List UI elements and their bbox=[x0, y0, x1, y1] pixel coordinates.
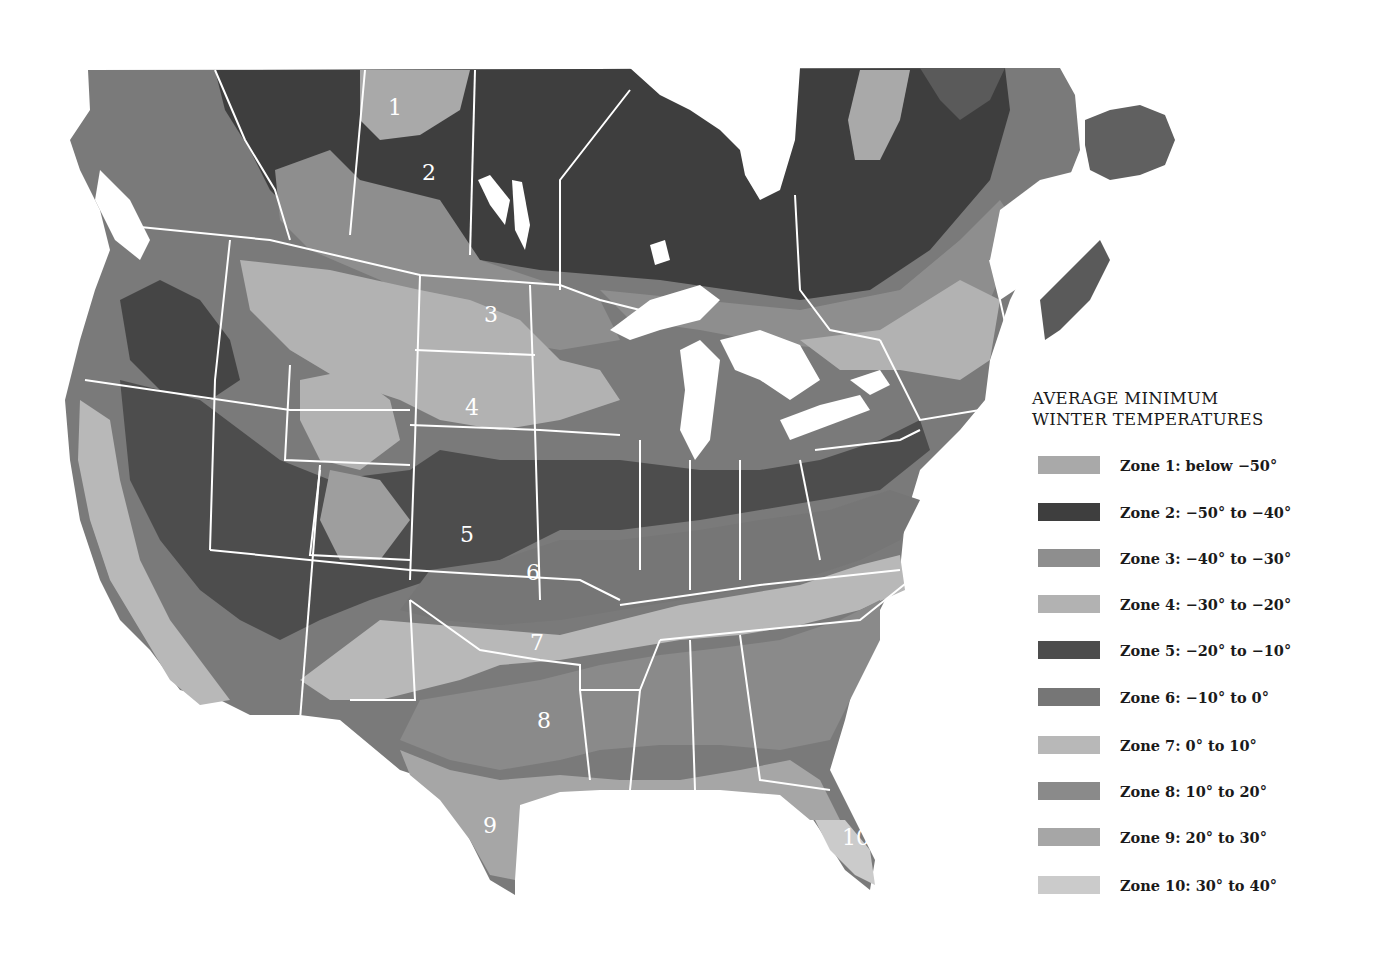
legend-item-zone-2: Zone 2: −50° to −40° bbox=[1032, 501, 1291, 523]
swatch-zone-10 bbox=[1038, 876, 1100, 894]
zone-label-8: 8 bbox=[537, 708, 551, 733]
swatch-zone-1 bbox=[1038, 456, 1100, 474]
legend-item-zone-1: Zone 1: below −50° bbox=[1032, 454, 1277, 476]
legend-title-line-1: AVERAGE MINIMUM bbox=[1032, 388, 1332, 409]
legend-label-zone-3: Zone 3: −40° to −30° bbox=[1120, 550, 1291, 567]
swatch-zone-7 bbox=[1038, 736, 1100, 754]
legend: AVERAGE MINIMUM WINTER TEMPERATURES Zone… bbox=[1032, 388, 1332, 430]
swatch-zone-5 bbox=[1038, 641, 1100, 659]
legend-label-zone-2: Zone 2: −50° to −40° bbox=[1120, 504, 1291, 521]
legend-label-zone-1: Zone 1: below −50° bbox=[1120, 457, 1277, 474]
zone-label-2: 2 bbox=[422, 160, 436, 185]
zone-label-5: 5 bbox=[460, 522, 474, 547]
zone-label-9: 9 bbox=[483, 813, 497, 838]
legend-item-zone-7: Zone 7: 0° to 10° bbox=[1032, 734, 1257, 756]
zone-label-10: 10 bbox=[842, 825, 870, 850]
legend-item-zone-9: Zone 9: 20° to 30° bbox=[1032, 826, 1267, 848]
swatch-zone-9 bbox=[1038, 828, 1100, 846]
zone-label-4: 4 bbox=[465, 395, 479, 420]
legend-item-zone-3: Zone 3: −40° to −30° bbox=[1032, 547, 1291, 569]
legend-label-zone-5: Zone 5: −20° to −10° bbox=[1120, 642, 1291, 659]
legend-item-zone-4: Zone 4: −30° to −20° bbox=[1032, 593, 1291, 615]
swatch-zone-3 bbox=[1038, 549, 1100, 567]
swatch-zone-6 bbox=[1038, 688, 1100, 706]
legend-item-zone-6: Zone 6: −10° to 0° bbox=[1032, 686, 1269, 708]
legend-item-zone-10: Zone 10: 30° to 40° bbox=[1032, 874, 1277, 896]
hardiness-zone-map: 1 2 3 4 5 6 7 8 9 10 bbox=[0, 0, 1379, 956]
zone-label-7: 7 bbox=[530, 630, 544, 655]
legend-item-zone-8: Zone 8: 10° to 20° bbox=[1032, 780, 1267, 802]
legend-label-zone-4: Zone 4: −30° to −20° bbox=[1120, 596, 1291, 613]
swatch-zone-2 bbox=[1038, 503, 1100, 521]
zone-label-1: 1 bbox=[388, 95, 402, 120]
legend-label-zone-9: Zone 9: 20° to 30° bbox=[1120, 829, 1267, 846]
swatch-zone-8 bbox=[1038, 782, 1100, 800]
legend-label-zone-10: Zone 10: 30° to 40° bbox=[1120, 877, 1277, 894]
legend-item-zone-5: Zone 5: −20° to −10° bbox=[1032, 639, 1291, 661]
legend-title-line-2: WINTER TEMPERATURES bbox=[1032, 409, 1332, 430]
zone-label-3: 3 bbox=[484, 302, 498, 327]
legend-label-zone-8: Zone 8: 10° to 20° bbox=[1120, 783, 1267, 800]
zone-label-6: 6 bbox=[526, 560, 540, 585]
legend-label-zone-6: Zone 6: −10° to 0° bbox=[1120, 689, 1269, 706]
swatch-zone-4 bbox=[1038, 595, 1100, 613]
legend-label-zone-7: Zone 7: 0° to 10° bbox=[1120, 737, 1257, 754]
